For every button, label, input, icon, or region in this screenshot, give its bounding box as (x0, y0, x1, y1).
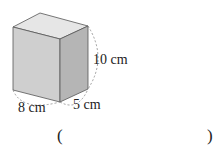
side-face (60, 26, 88, 102)
front-face (13, 27, 60, 102)
height-label: 10 cm (93, 53, 128, 67)
width-label: 5 cm (73, 98, 101, 112)
length-label: 8 cm (18, 101, 46, 115)
answer-close-paren: ) (207, 127, 213, 144)
answer-blank[interactable] (70, 127, 200, 144)
answer-open-paren: ( (57, 127, 63, 144)
